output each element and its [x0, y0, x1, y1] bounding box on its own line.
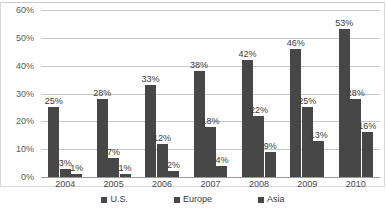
bar-slot: 9%: [265, 10, 276, 177]
bar-asia-2008[interactable]: [265, 152, 276, 177]
plot-area: 25%3%1%28%7%1%33%12%2%38%18%4%42%22%9%46…: [41, 10, 380, 177]
bar-us-2010[interactable]: [339, 29, 350, 177]
y-axis-tick-50: 50%: [16, 33, 34, 42]
bar-slot: 28%: [350, 10, 361, 177]
bar-group-2004: 25%3%1%: [41, 10, 89, 177]
bar-value-label: 13%: [310, 131, 328, 140]
legend-label: Europe: [183, 195, 212, 204]
bar-group-bars: 33%12%2%: [138, 10, 186, 177]
y-axis-tick-20: 20%: [16, 117, 34, 126]
y-axis-tick-30: 30%: [16, 89, 34, 98]
bar-asia-2005[interactable]: [120, 174, 131, 177]
bar-europe-2007[interactable]: [205, 127, 216, 177]
bar-slot: 42%: [242, 10, 253, 177]
y-axis-tick-40: 40%: [16, 61, 34, 70]
legend-item-us[interactable]: U.S.: [101, 195, 128, 204]
bar-slot: 46%: [290, 10, 301, 177]
legend-swatch-icon: [174, 197, 180, 203]
bar-us-2008[interactable]: [242, 60, 253, 177]
bar-group-2009: 46%25%13%: [283, 10, 331, 177]
legend-label: U.S.: [110, 195, 128, 204]
y-axis-tick-60: 60%: [16, 6, 34, 15]
bar-groups: 25%3%1%28%7%1%33%12%2%38%18%4%42%22%9%46…: [41, 10, 380, 177]
bar-group-bars: 42%22%9%: [235, 10, 283, 177]
bar-slot: 25%: [48, 10, 59, 177]
bar-group-2010: 53%28%16%: [332, 10, 380, 177]
bar-value-label: 2%: [167, 161, 180, 170]
bar-europe-2010[interactable]: [350, 99, 361, 177]
bar-value-label: 16%: [358, 122, 376, 131]
bar-asia-2010[interactable]: [362, 132, 373, 177]
bar-group-2007: 38%18%4%: [186, 10, 234, 177]
x-axis-tick-2005: 2005: [89, 179, 137, 189]
bar-slot: 1%: [119, 10, 130, 177]
legend-swatch-icon: [101, 197, 107, 203]
bar-europe-2009[interactable]: [302, 107, 313, 177]
bar-value-label: 7%: [107, 148, 120, 157]
bar-slot: 22%: [253, 10, 264, 177]
bar-value-label: 4%: [215, 156, 228, 165]
bar-value-label: 1%: [119, 164, 132, 173]
bar-slot: 4%: [216, 10, 227, 177]
bar-slot: 1%: [71, 10, 82, 177]
bar-slot: 16%: [361, 10, 372, 177]
legend-swatch-icon: [258, 197, 264, 203]
bar-us-2006[interactable]: [145, 85, 156, 177]
bar-chart: 60% 50% 40% 30% 20% 10% 0% 25%3%1%28%7%1…: [0, 0, 386, 218]
bar-slot: 12%: [156, 10, 167, 177]
bar-slot: 2%: [168, 10, 179, 177]
bar-group-bars: 28%7%1%: [89, 10, 137, 177]
y-axis-tick-0: 0%: [21, 173, 34, 182]
x-axis-tick-2004: 2004: [41, 179, 89, 189]
bar-slot: 7%: [108, 10, 119, 177]
bar-value-label: 1%: [70, 164, 83, 173]
bar-group-2008: 42%22%9%: [235, 10, 283, 177]
bar-slot: 33%: [145, 10, 156, 177]
bar-group-2006: 33%12%2%: [138, 10, 186, 177]
bar-slot: 25%: [302, 10, 313, 177]
bar-asia-2009[interactable]: [313, 141, 324, 177]
gridline-0: [41, 177, 380, 178]
bar-us-2005[interactable]: [97, 99, 108, 177]
x-axis-tick-2007: 2007: [186, 179, 234, 189]
bar-slot: 18%: [205, 10, 216, 177]
bar-europe-2006[interactable]: [157, 144, 168, 177]
bar-us-2004[interactable]: [48, 107, 59, 177]
x-axis-tick-2008: 2008: [235, 179, 283, 189]
y-axis-tick-10: 10%: [16, 145, 34, 154]
legend-label: Asia: [267, 195, 285, 204]
x-axis-labels: 2004200520062007200820092010: [41, 179, 380, 189]
bar-europe-2005[interactable]: [108, 158, 119, 177]
bar-value-label: 9%: [264, 142, 277, 151]
x-axis-tick-2006: 2006: [138, 179, 186, 189]
y-axis-labels: 60% 50% 40% 30% 20% 10% 0%: [0, 10, 38, 177]
bar-group-2005: 28%7%1%: [89, 10, 137, 177]
x-axis-tick-2010: 2010: [332, 179, 380, 189]
bar-asia-2007[interactable]: [216, 166, 227, 177]
x-axis-tick-2009: 2009: [283, 179, 331, 189]
bar-asia-2006[interactable]: [168, 171, 179, 177]
legend-item-asia[interactable]: Asia: [258, 195, 285, 204]
legend-item-europe[interactable]: Europe: [174, 195, 212, 204]
bar-group-bars: 46%25%13%: [283, 10, 331, 177]
bar-group-bars: 25%3%1%: [41, 10, 89, 177]
bar-us-2009[interactable]: [290, 49, 301, 177]
bar-europe-2008[interactable]: [253, 116, 264, 177]
chart-legend: U.S.EuropeAsia: [0, 195, 386, 204]
bar-slot: 38%: [193, 10, 204, 177]
bar-slot: 13%: [313, 10, 324, 177]
bar-group-bars: 38%18%4%: [186, 10, 234, 177]
bar-europe-2004[interactable]: [60, 169, 71, 177]
bar-asia-2004[interactable]: [71, 174, 82, 177]
bar-group-bars: 53%28%16%: [332, 10, 380, 177]
bar-slot: 3%: [59, 10, 70, 177]
